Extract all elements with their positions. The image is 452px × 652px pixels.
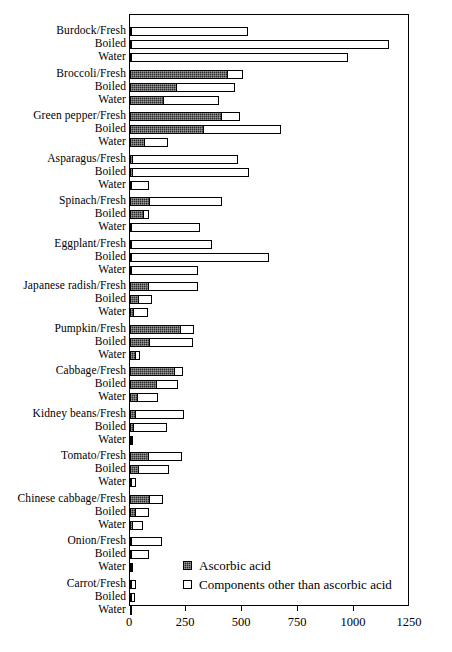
stacked-bar[interactable] (130, 308, 148, 317)
bar-segment-other-components (131, 266, 198, 275)
stacked-bar[interactable] (130, 593, 135, 602)
bar-segment-other-components (132, 521, 143, 530)
bar-segment-other-components (227, 70, 243, 79)
stacked-bar[interactable] (130, 197, 222, 206)
bar-segment-other-components (203, 125, 281, 134)
stacked-bar[interactable] (130, 282, 198, 291)
bar-segment-ascorbic-acid (130, 282, 149, 291)
row-label-boiled: Boiled (0, 208, 126, 219)
bar-segment-other-components (135, 410, 184, 419)
row-label-boiled: Boiled (0, 336, 126, 347)
bar-segment-other-components (174, 367, 183, 376)
stacked-bar[interactable] (130, 423, 167, 432)
stacked-bar[interactable] (130, 550, 149, 559)
bar-segment-other-components (148, 452, 182, 461)
row-label-boiled: Boiled (0, 38, 126, 49)
x-tick-label: 500 (232, 615, 251, 630)
x-axis: 025050075010001250 (129, 606, 409, 646)
x-tick-label: 250 (176, 615, 195, 630)
bar-segment-other-components (221, 112, 240, 121)
bar-segment-ascorbic-acid (130, 338, 150, 347)
stacked-bar[interactable] (130, 580, 136, 589)
stacked-bar[interactable] (130, 96, 219, 105)
row-label-water: Water (0, 51, 126, 62)
legend-item[interactable]: Ascorbic acid (183, 556, 392, 575)
chart-legend: Ascorbic acidComponents other than ascor… (183, 556, 392, 594)
bar-segment-other-components (137, 393, 157, 402)
stacked-bar[interactable] (130, 465, 169, 474)
stacked-bar[interactable] (130, 478, 136, 487)
stacked-bar[interactable] (130, 367, 183, 376)
stacked-bar[interactable] (130, 325, 194, 334)
stacked-bar[interactable] (130, 521, 143, 530)
stacked-bar[interactable] (130, 125, 281, 134)
row-label-water: Water (0, 561, 126, 572)
stacked-bar[interactable] (130, 112, 240, 121)
bar-segment-other-components (149, 338, 193, 347)
plot-area (129, 14, 409, 606)
row-label-cabbage-fresh: Cabbage/Fresh (0, 365, 126, 376)
legend-swatch-dark-icon (183, 561, 192, 570)
row-label-onion-fresh: Onion/Fresh (0, 535, 126, 546)
bar-segment-other-components (131, 40, 389, 49)
row-label-asparagus-fresh: Asparagus/Fresh (0, 153, 126, 164)
bar-segment-other-components (144, 138, 168, 147)
legend-label: Components other than ascorbic acid (199, 575, 392, 594)
row-label-boiled: Boiled (0, 506, 126, 517)
row-label-water: Water (0, 434, 126, 445)
row-label-eggplant-fresh: Eggplant/Fresh (0, 238, 126, 249)
bar-segment-other-components (131, 580, 136, 589)
stacked-bar[interactable] (130, 410, 184, 419)
stacked-bar[interactable] (130, 495, 163, 504)
bar-segment-other-components (135, 351, 140, 360)
row-label-water: Water (0, 136, 126, 147)
stacked-bar[interactable] (130, 537, 162, 546)
bar-segment-other-components (131, 593, 135, 602)
stacked-bar[interactable] (130, 138, 168, 147)
stacked-bar[interactable] (130, 155, 238, 164)
stacked-bar[interactable] (130, 70, 243, 79)
bar-segment-other-components (131, 223, 200, 232)
row-label-broccoli-fresh: Broccoli/Fresh (0, 68, 126, 79)
bar-segment-other-components (133, 308, 148, 317)
stacked-bar[interactable] (130, 393, 158, 402)
bar-segment-other-components (132, 168, 250, 177)
stacked-bar[interactable] (130, 210, 149, 219)
stacked-bar[interactable] (130, 27, 248, 36)
row-label-kidney-beans-fresh: Kidney beans/Fresh (0, 408, 126, 419)
stacked-bar[interactable] (130, 83, 235, 92)
stacked-bar[interactable] (130, 351, 140, 360)
row-label-boiled: Boiled (0, 591, 126, 602)
stacked-bar[interactable] (130, 508, 149, 517)
bar-segment-ascorbic-acid (130, 367, 175, 376)
x-tick-label: 1250 (397, 615, 422, 630)
stacked-bar[interactable] (130, 168, 249, 177)
stacked-bar[interactable] (130, 253, 269, 262)
legend-swatch-light-icon (183, 580, 192, 589)
bar-segment-other-components (149, 495, 162, 504)
bar-segment-ascorbic-acid (130, 210, 144, 219)
stacked-bar[interactable] (130, 223, 200, 232)
stacked-bar[interactable] (130, 563, 133, 572)
stacked-bar[interactable] (130, 338, 193, 347)
row-label-boiled: Boiled (0, 81, 126, 92)
stacked-bar[interactable] (130, 266, 198, 275)
stacked-bar[interactable] (130, 181, 149, 190)
bar-segment-other-components (138, 295, 152, 304)
row-label-pumpkin-fresh: Pumpkin/Fresh (0, 323, 126, 334)
stacked-bar[interactable] (130, 452, 182, 461)
bar-segment-other-components (131, 436, 133, 445)
row-label-boiled: Boiled (0, 251, 126, 262)
stacked-bar[interactable] (130, 295, 152, 304)
stacked-bar[interactable] (130, 380, 178, 389)
bar-segment-other-components (131, 253, 269, 262)
stacked-bar[interactable] (130, 40, 389, 49)
stacked-bar[interactable] (130, 436, 133, 445)
bar-segment-other-components (131, 550, 149, 559)
stacked-bar[interactable] (130, 53, 348, 62)
row-label-water: Water (0, 264, 126, 275)
legend-item[interactable]: Components other than ascorbic acid (183, 575, 392, 594)
bar-segment-ascorbic-acid (130, 70, 228, 79)
stacked-bar[interactable] (130, 240, 212, 249)
bar-segment-ascorbic-acid (130, 138, 145, 147)
